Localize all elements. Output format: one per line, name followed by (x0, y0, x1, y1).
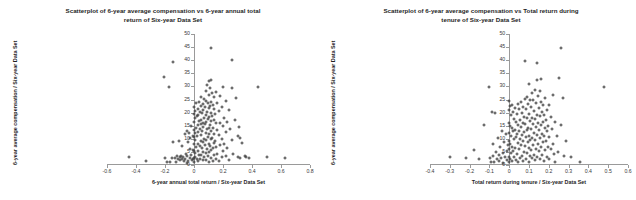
data-point-marker (223, 116, 226, 119)
data-point-marker (551, 93, 554, 96)
data-point-marker (518, 129, 521, 132)
data-point-marker (534, 101, 537, 104)
chart-left-title: Scatterplot of 6-year average compensati… (22, 6, 304, 24)
data-point-marker (472, 149, 475, 152)
data-point-marker (229, 127, 232, 130)
data-point-marker (536, 142, 539, 145)
data-point-marker (538, 158, 541, 161)
data-point-marker (167, 85, 170, 88)
data-point-marker (169, 160, 172, 163)
data-point-marker (214, 145, 217, 148)
chart-left-y-axis-title: 6-year average compensation / Six-year D… (12, 41, 18, 165)
data-point-marker (535, 78, 538, 81)
data-point-marker (171, 61, 174, 64)
x-tick-label: 0.5 (605, 169, 612, 174)
data-point-marker (539, 100, 542, 103)
data-point-marker (510, 134, 513, 137)
data-point-marker (536, 94, 539, 97)
data-point-marker (492, 154, 495, 157)
data-point-marker (556, 150, 559, 153)
data-point-marker (549, 147, 552, 150)
y-tick-label: 35 (184, 71, 190, 76)
data-point-marker (183, 133, 186, 136)
data-point-marker (240, 142, 243, 145)
data-point-marker (528, 160, 531, 163)
data-point-marker (200, 112, 203, 115)
data-point-marker (520, 125, 523, 128)
data-point-marker (498, 160, 501, 163)
data-point-marker (542, 114, 545, 117)
data-point-marker (202, 126, 205, 129)
data-point-marker (232, 153, 235, 156)
data-point-marker (448, 156, 451, 159)
data-point-marker (521, 134, 524, 137)
data-point-marker (212, 96, 215, 99)
data-point-marker (494, 112, 497, 115)
chart-right-title: Scatterplot of 6-year average compensati… (340, 6, 622, 24)
data-point-marker (537, 150, 540, 153)
data-point-marker (533, 159, 536, 162)
data-point-marker (543, 97, 546, 100)
x-tick-label: -0.4 (132, 169, 141, 174)
data-point-marker (531, 122, 534, 125)
x-tick-label: 0.2 (219, 169, 226, 174)
y-tick-label: 40 (184, 58, 190, 63)
data-point-marker (210, 78, 213, 81)
data-point-marker (187, 160, 190, 163)
data-point-marker (528, 112, 531, 115)
data-point-marker (537, 107, 540, 110)
data-point-marker (538, 115, 541, 118)
data-point-marker (204, 89, 207, 92)
data-point-marker (542, 134, 545, 137)
data-point-marker (200, 129, 203, 132)
data-point-marker (559, 47, 562, 50)
y-tick (191, 34, 194, 35)
data-point-marker (206, 110, 209, 113)
data-point-marker (211, 92, 214, 95)
x-tick-label: -0.2 (161, 169, 170, 174)
data-point-marker (492, 142, 495, 145)
y-tick-label: 20 (499, 110, 505, 115)
data-point-marker (579, 160, 582, 163)
x-tick-label: -0.4 (426, 169, 435, 174)
x-tick-label: -0.6 (103, 169, 112, 174)
y-tick (506, 47, 509, 48)
data-point-marker (201, 159, 204, 162)
data-point-marker (226, 120, 229, 123)
data-point-marker (214, 90, 217, 93)
data-point-marker (195, 135, 198, 138)
data-point-marker (539, 146, 542, 149)
y-tick-label: 40 (499, 58, 505, 63)
data-point-marker (171, 141, 174, 144)
data-point-marker (164, 157, 167, 160)
x-tick-label: 0.1 (525, 169, 532, 174)
data-point-marker (564, 140, 567, 143)
data-point-marker (553, 121, 556, 124)
data-point-marker (222, 85, 225, 88)
data-point-marker (174, 161, 177, 164)
data-point-marker (545, 108, 548, 111)
y-tick-label: 30 (184, 84, 190, 89)
data-point-marker (524, 59, 527, 62)
data-point-marker (544, 139, 547, 142)
data-point-marker (511, 159, 514, 162)
data-point-marker (497, 136, 500, 139)
y-tick-label: 25 (184, 97, 190, 102)
data-point-marker (224, 100, 227, 103)
title-line-2: return of Six-year Data Set (22, 15, 304, 24)
data-point-marker (239, 156, 242, 159)
data-point-marker (530, 92, 533, 95)
data-point-marker (529, 148, 532, 151)
y-tick-label: 35 (499, 71, 505, 76)
data-point-marker (216, 102, 219, 105)
data-point-marker (549, 116, 552, 119)
data-point-marker (222, 124, 225, 127)
x-tick-label: -0.2 (465, 169, 474, 174)
chart-right-plot-area: 05101520253035404550-0.4-0.3-0.2-0.100.1… (430, 34, 628, 165)
data-point-marker (230, 58, 233, 61)
data-point-marker (216, 129, 219, 132)
data-point-marker (528, 83, 531, 86)
data-point-marker (235, 96, 238, 99)
data-point-marker (220, 156, 223, 159)
y-tick-label: 45 (499, 44, 505, 49)
